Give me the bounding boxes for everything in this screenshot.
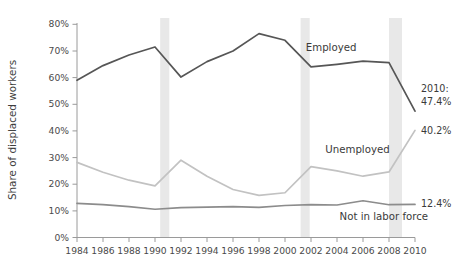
x-tick-label-2006: 2006 (351, 245, 375, 256)
y-tick-label-70: 70% (49, 45, 70, 56)
x-tick-label-1990: 1990 (143, 245, 167, 256)
y-tick-label-50: 50% (49, 98, 70, 109)
y-tick-label-0: 0% (54, 232, 69, 243)
recession-band-1990 (160, 18, 169, 237)
series-line-employed (77, 34, 415, 112)
x-tick-label-1994: 1994 (195, 245, 219, 256)
x-tick-label-1984: 1984 (65, 245, 89, 256)
y-tick-label-60: 60% (49, 72, 70, 83)
series-line-unemployed (77, 130, 415, 195)
x-axis-ticks (77, 238, 415, 243)
unemployed-series-label: Unemployed (325, 144, 389, 155)
x-tick-label-2010: 2010 (403, 245, 427, 256)
y-axis-ticks (73, 24, 78, 237)
y-tick-label-80: 80% (49, 18, 70, 29)
y-tick-label-10: 10% (49, 205, 70, 216)
y-tick-label-30: 30% (49, 152, 70, 163)
not-in-labor-force-series-label: Not in labor force (340, 211, 428, 222)
x-axis-tick-labels: 1984 1986 1988 1990 1992 1994 1996 1998 … (65, 245, 427, 256)
x-tick-label-1998: 1998 (247, 245, 271, 256)
x-tick-label-2000: 2000 (273, 245, 297, 256)
chart-container: 0% 10% 20% 30% 40% 50% 60% 70% 80% (0, 0, 463, 265)
line-chart: 0% 10% 20% 30% 40% 50% 60% 70% 80% (0, 0, 463, 265)
employed-end-label-year: 2010: (421, 83, 449, 94)
x-tick-label-2004: 2004 (325, 245, 349, 256)
series-line-not-in-labor-force (77, 201, 415, 210)
x-tick-label-1992: 1992 (169, 245, 192, 256)
not-in-labor-force-end-label: 12.4% (421, 198, 451, 209)
y-tick-label-40: 40% (49, 125, 70, 136)
employed-end-label-value: 47.4% (421, 96, 451, 107)
employed-series-label: Employed (306, 42, 357, 53)
x-tick-label-1996: 1996 (221, 245, 245, 256)
y-axis-tick-labels: 0% 10% 20% 30% 40% 50% 60% 70% 80% (49, 18, 70, 242)
unemployed-end-label: 40.2% (421, 125, 451, 136)
y-tick-label-20: 20% (49, 178, 70, 189)
recession-bands (160, 18, 402, 237)
x-tick-label-2002: 2002 (299, 245, 322, 256)
x-tick-label-1986: 1986 (91, 245, 115, 256)
x-tick-label-1988: 1988 (117, 245, 141, 256)
y-axis-title: Share of displaced workers (6, 60, 18, 200)
x-tick-label-2008: 2008 (377, 245, 401, 256)
